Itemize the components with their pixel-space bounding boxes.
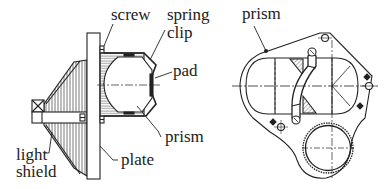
light-shield-end-box xyxy=(32,100,44,112)
plate-leader xyxy=(100,146,118,160)
pad-leader xyxy=(155,72,172,78)
label-spring-clip-1: spring xyxy=(167,5,210,24)
screw-icon xyxy=(80,114,85,121)
label-plate: plate xyxy=(121,150,154,169)
label-screw: screw xyxy=(111,5,151,24)
right-view xyxy=(232,26,378,180)
label-pad: pad xyxy=(173,61,198,80)
spring-clip-leader xyxy=(150,30,165,60)
screw-icon xyxy=(100,46,104,53)
label-prism-right: prism xyxy=(242,4,281,23)
screw-icon xyxy=(100,116,104,123)
label-prism-left: prism xyxy=(165,127,204,146)
prism-body xyxy=(104,57,152,112)
prism-leader xyxy=(137,106,161,137)
label-light-shield-2: shield xyxy=(16,162,57,181)
prism-leader-right xyxy=(254,26,266,51)
prism-mount-diagram: screw spring clip pad prism plate light … xyxy=(0,0,390,189)
screw-leader xyxy=(104,24,113,46)
label-spring-clip-2: clip xyxy=(167,23,193,42)
plate xyxy=(87,33,100,179)
shield-tube xyxy=(32,112,87,123)
